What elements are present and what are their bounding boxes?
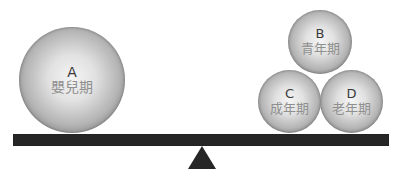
ball-a-infancy: A 嬰兒期 (19, 27, 125, 133)
ball-b-youth: B 青年期 (288, 10, 352, 74)
scale-beam (13, 134, 389, 146)
ball-d-letter: D (346, 87, 356, 101)
ball-c-term: 成年期 (270, 101, 309, 117)
ball-d-term: 老年期 (332, 101, 371, 117)
ball-a-term: 嬰兒期 (51, 79, 93, 95)
ball-a-letter: A (67, 65, 77, 79)
ball-c-adulthood: C 成年期 (258, 70, 321, 133)
ball-c-letter: C (285, 87, 294, 101)
ball-d-old-age: D 老年期 (320, 70, 383, 133)
ball-b-letter: B (316, 27, 325, 41)
ball-b-term: 青年期 (301, 41, 340, 57)
fulcrum-triangle-icon (188, 146, 216, 169)
